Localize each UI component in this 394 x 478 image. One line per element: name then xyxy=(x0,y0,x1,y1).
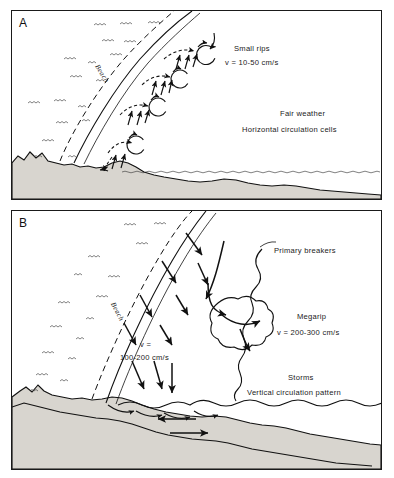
surf-zone-inner-line-b xyxy=(116,213,216,404)
panel-a-velocity-label: v = 10-50 cm/s xyxy=(225,58,279,67)
panel-a-letter: A xyxy=(19,16,28,30)
panel-b-letter: B xyxy=(19,216,28,230)
beach-dashed-contour-b xyxy=(92,211,192,399)
panel-b: B Beach Primary breakers Megarip v = 200… xyxy=(11,210,382,470)
panel-b-flow-velocity-label-line2: 100-200 cm/s xyxy=(120,353,169,362)
water-line xyxy=(122,171,380,173)
panel-b-condition-label: Storms xyxy=(288,373,314,382)
panel-b-flow-velocity-label-line1: v = xyxy=(140,340,151,349)
circulation-cell-3 xyxy=(120,95,170,125)
figure-root: A Beach Small rips v = 10-50 cm/s Fair w… xyxy=(0,0,394,478)
panel-a-pattern-label: Horizontal circulation cells xyxy=(242,125,337,134)
water-surface-line-b xyxy=(118,400,382,408)
panel-a: A Beach Small rips v = 10-50 cm/s Fair w… xyxy=(11,10,382,200)
panel-b-breakers-label: Primary breakers xyxy=(274,246,336,255)
shoreline-landmass-b xyxy=(12,385,381,469)
panel-b-feature-label: Megarip xyxy=(297,312,326,321)
panel-a-graphic xyxy=(12,11,381,199)
shoreline-landmass xyxy=(12,152,381,199)
megarip-eddy xyxy=(210,296,273,351)
circulation-cell-2 xyxy=(142,67,192,95)
panel-a-condition-label: Fair weather xyxy=(280,109,325,118)
flow-arrows-b xyxy=(124,233,208,393)
primary-breaker-flow xyxy=(206,241,226,315)
beach-dashed-contour xyxy=(60,11,174,161)
panel-a-feature-label: Small rips xyxy=(234,44,270,53)
panel-b-pattern-label: Vertical circulation pattern xyxy=(247,388,341,397)
panel-b-megarip-velocity-label: v = 200-300 cm/s xyxy=(277,328,339,337)
shoreline-solid xyxy=(74,11,192,163)
